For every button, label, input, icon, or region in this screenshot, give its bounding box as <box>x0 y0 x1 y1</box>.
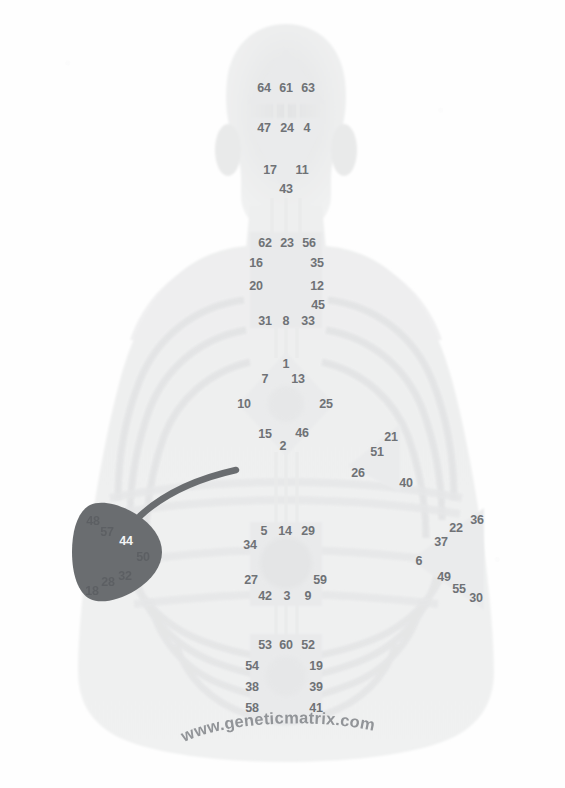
root-glow <box>266 656 306 696</box>
gate-50[interactable]: 50 <box>136 550 150 564</box>
gate-17[interactable]: 17 <box>263 163 277 177</box>
gate-19[interactable]: 19 <box>309 659 323 673</box>
gate-61[interactable]: 61 <box>279 81 293 95</box>
gate-34[interactable]: 34 <box>243 538 257 552</box>
gate-49[interactable]: 49 <box>437 570 451 584</box>
gate-35[interactable]: 35 <box>310 256 324 270</box>
gate-62[interactable]: 62 <box>258 236 272 250</box>
gate-59[interactable]: 59 <box>313 573 327 587</box>
gate-63[interactable]: 63 <box>301 81 315 95</box>
gate-47[interactable]: 47 <box>257 121 271 135</box>
gate-44[interactable]: 44 <box>119 534 133 548</box>
gate-58[interactable]: 58 <box>245 701 259 715</box>
gate-53[interactable]: 53 <box>258 638 272 652</box>
gate-48[interactable]: 48 <box>86 514 100 528</box>
gate-30[interactable]: 30 <box>469 591 483 605</box>
gate-1[interactable]: 1 <box>283 357 290 371</box>
gate-56[interactable]: 56 <box>302 236 316 250</box>
gate-22[interactable]: 22 <box>449 521 463 535</box>
gate-26[interactable]: 26 <box>351 466 365 480</box>
gate-46[interactable]: 46 <box>295 426 309 440</box>
gate-54[interactable]: 54 <box>245 659 259 673</box>
gate-41[interactable]: 41 <box>309 701 323 715</box>
gate-27[interactable]: 27 <box>244 573 258 587</box>
gate-8[interactable]: 8 <box>283 314 290 328</box>
gate-55[interactable]: 55 <box>452 582 466 596</box>
gate-60[interactable]: 60 <box>279 638 293 652</box>
gate-38[interactable]: 38 <box>245 680 259 694</box>
gate-18[interactable]: 18 <box>85 584 99 598</box>
bodygraph-illustration: www.geneticmatrix.com <box>0 0 565 788</box>
bodygraph-image: www.geneticmatrix.com 646163472441711436… <box>0 0 565 788</box>
gate-2[interactable]: 2 <box>280 439 287 453</box>
gate-45[interactable]: 45 <box>311 298 325 312</box>
gate-40[interactable]: 40 <box>399 476 413 490</box>
gate-42[interactable]: 42 <box>258 589 272 603</box>
gate-16[interactable]: 16 <box>249 256 263 270</box>
gate-4[interactable]: 4 <box>304 121 311 135</box>
gate-29[interactable]: 29 <box>301 524 315 538</box>
gate-33[interactable]: 33 <box>301 314 315 328</box>
sacral-glow <box>260 537 312 589</box>
gate-5[interactable]: 5 <box>261 524 268 538</box>
gate-39[interactable]: 39 <box>309 680 323 694</box>
gate-28[interactable]: 28 <box>101 575 115 589</box>
gate-57[interactable]: 57 <box>100 525 114 539</box>
gate-10[interactable]: 10 <box>237 397 251 411</box>
g-glow <box>268 386 304 422</box>
gate-13[interactable]: 13 <box>291 372 305 386</box>
gate-25[interactable]: 25 <box>319 397 333 411</box>
gate-11[interactable]: 11 <box>296 163 309 177</box>
gate-36[interactable]: 36 <box>470 513 484 527</box>
gate-24[interactable]: 24 <box>280 121 294 135</box>
gate-9[interactable]: 9 <box>305 589 312 603</box>
gate-32[interactable]: 32 <box>118 569 132 583</box>
gate-21[interactable]: 21 <box>384 430 398 444</box>
gate-31[interactable]: 31 <box>258 314 272 328</box>
gate-14[interactable]: 14 <box>278 524 292 538</box>
gate-15[interactable]: 15 <box>258 427 272 441</box>
gate-43[interactable]: 43 <box>279 182 293 196</box>
gate-7[interactable]: 7 <box>262 372 269 386</box>
gate-23[interactable]: 23 <box>280 236 294 250</box>
gate-12[interactable]: 12 <box>310 279 324 293</box>
gate-20[interactable]: 20 <box>249 279 263 293</box>
gate-37[interactable]: 37 <box>434 535 448 549</box>
gate-52[interactable]: 52 <box>301 638 315 652</box>
gate-64[interactable]: 64 <box>257 81 271 95</box>
gate-51[interactable]: 51 <box>370 445 384 459</box>
gate-6[interactable]: 6 <box>416 554 423 568</box>
gate-3[interactable]: 3 <box>284 589 291 603</box>
